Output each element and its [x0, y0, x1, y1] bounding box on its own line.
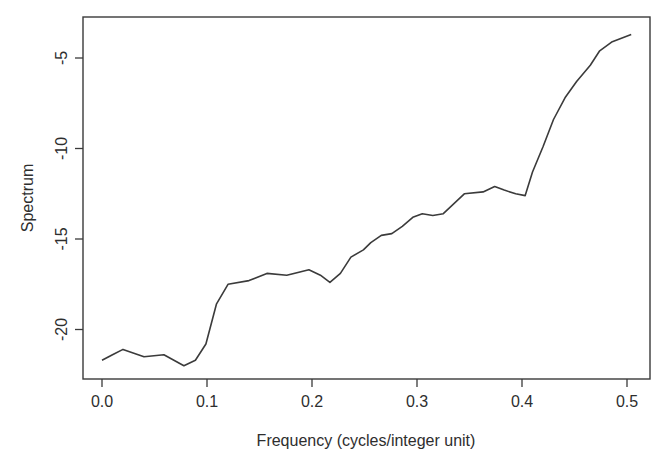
y-axis: -5-10-15-20 [53, 51, 83, 341]
spectrum-chart: 0.00.10.20.30.40.5 -5-10-15-20 Frequency… [0, 0, 665, 465]
y-tick-label: -10 [53, 137, 70, 160]
x-tick-label: 0.4 [511, 393, 533, 410]
y-tick-label: -15 [53, 227, 70, 250]
plot-frame [83, 17, 650, 379]
spectrum-line [102, 35, 631, 366]
x-axis: 0.00.10.20.30.40.5 [91, 379, 638, 410]
x-tick-label: 0.1 [196, 393, 218, 410]
x-tick-label: 0.3 [406, 393, 428, 410]
y-axis-label: Spectrum [19, 164, 36, 232]
x-tick-label: 0.0 [91, 393, 113, 410]
y-tick-label: -5 [53, 51, 70, 65]
x-tick-label: 0.2 [301, 393, 323, 410]
x-axis-label: Frequency (cycles/integer unit) [257, 432, 476, 449]
x-tick-label: 0.5 [616, 393, 638, 410]
y-tick-label: -20 [53, 318, 70, 341]
